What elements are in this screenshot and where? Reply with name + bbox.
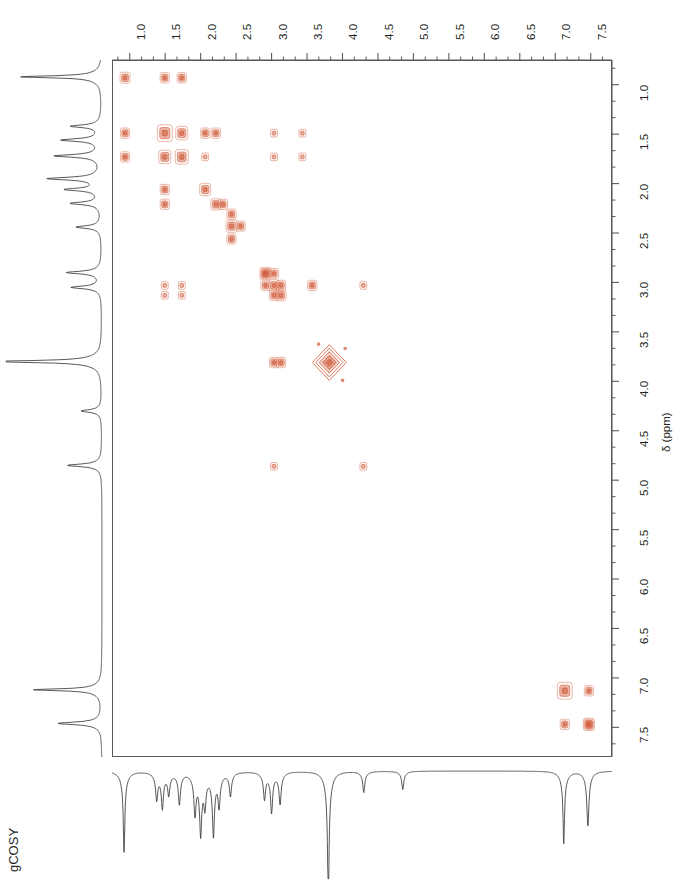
f2-tick-label: 2.5 xyxy=(241,24,253,40)
f1-tick-label: 7.0 xyxy=(638,678,650,694)
f2-tick-label: 1.0 xyxy=(135,24,147,40)
f2-tick-label: 6.5 xyxy=(525,24,537,40)
f2-axis xyxy=(112,44,612,60)
f1-tick-label: 6.5 xyxy=(638,628,650,644)
f1-axis xyxy=(612,60,628,757)
f2-tick-label: 4.0 xyxy=(347,24,359,40)
f2-tick-label: 4.5 xyxy=(383,24,395,40)
f2-tick-label: 3.0 xyxy=(277,24,289,40)
f1-tick-label: 6.0 xyxy=(638,579,650,595)
f1-tick-label: 5.0 xyxy=(638,480,650,496)
contour-peaks xyxy=(113,61,611,756)
f2-tick-label: 6.0 xyxy=(489,24,501,40)
f1-tick-label: 7.5 xyxy=(638,727,650,743)
f1-tick-label: 2.5 xyxy=(638,233,650,249)
contour-plot-area[interactable] xyxy=(112,60,612,757)
f1-tick-label: 3.0 xyxy=(638,282,650,298)
f1-tick-label: 4.5 xyxy=(638,430,650,446)
f2-tick-label: 5.0 xyxy=(418,24,430,40)
f2-tick-label: 5.5 xyxy=(454,24,466,40)
f2-projection-trace xyxy=(112,757,612,885)
f2-tick-label: 7.0 xyxy=(560,24,572,40)
f2-tick-label: 3.5 xyxy=(312,24,324,40)
f2-tick-label: 2.0 xyxy=(206,24,218,40)
f1-tick-label: 5.5 xyxy=(638,529,650,545)
f1-axis-title: δ (ppm) xyxy=(660,412,672,452)
f2-tick-label: 1.5 xyxy=(170,24,182,40)
f1-tick-label: 3.5 xyxy=(638,332,650,348)
experiment-label: gCOSY xyxy=(6,828,21,872)
f1-tick-label: 2.0 xyxy=(638,183,650,199)
f2-tick-label: 7.5 xyxy=(596,24,608,40)
f1-tick-label: 4.0 xyxy=(638,381,650,397)
f1-tick-label: 1.0 xyxy=(638,84,650,100)
f1-projection-trace xyxy=(4,60,108,757)
spectrum-figure: 1.01.52.02.53.03.54.04.55.05.56.06.57.07… xyxy=(0,0,686,892)
f1-tick-label: 1.5 xyxy=(638,134,650,150)
